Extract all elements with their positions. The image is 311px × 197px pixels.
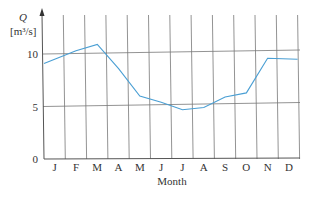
x-tick-label: D (285, 161, 293, 173)
x-tick-label: J (180, 161, 185, 173)
x-tick-label: M (135, 161, 145, 173)
x-tick-labels: JFMAMJJASOND (53, 161, 293, 173)
x-tick-label: N (264, 161, 272, 173)
y-tick-label: 10 (27, 48, 39, 60)
x-tick-label: A (115, 161, 123, 173)
x-tick-label: M (92, 161, 102, 173)
x-axis-label: Month (157, 175, 187, 187)
x-tick-label: J (53, 161, 58, 173)
y-tick-label: 5 (33, 101, 39, 113)
y-tick-labels: 0510 (27, 48, 39, 165)
x-tick-label: J (159, 161, 164, 173)
line-chart: 0510 JFMAMJJASOND Q [m³/s] Month (0, 0, 311, 197)
grid-lines (43, 15, 300, 159)
x-tick-label: A (200, 161, 208, 173)
x-tick-label: S (222, 161, 228, 173)
y-tick-label: 0 (33, 153, 39, 165)
x-tick-label: F (73, 161, 79, 173)
y-axis-unit: [m³/s] (10, 25, 37, 37)
x-tick-label: O (242, 161, 250, 173)
y-axis-symbol: Q (19, 11, 27, 23)
